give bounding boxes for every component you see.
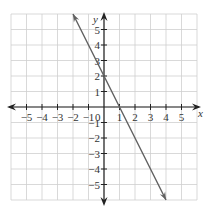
x-tick-label: 1 xyxy=(117,111,123,123)
x-tick-label: −4 xyxy=(36,111,48,123)
y-axis-label: y xyxy=(92,13,98,25)
x-tick-label: −5 xyxy=(21,111,33,123)
origin-label: 0 xyxy=(95,111,101,123)
x-tick-label: 5 xyxy=(179,111,185,123)
y-tick-label: 2 xyxy=(95,70,101,82)
x-tick-label: −3 xyxy=(52,111,64,123)
axes xyxy=(7,12,201,206)
y-tick-label: 5 xyxy=(95,24,101,36)
y-tick-label: 3 xyxy=(95,55,101,67)
coordinate-plane: −5−4−3−2−11234554321−1−2−3−4−5 x y 0 xyxy=(0,0,206,217)
y-tick-label: −2 xyxy=(88,132,100,144)
y-tick-label: −3 xyxy=(88,148,100,160)
y-tick-label: 4 xyxy=(95,39,101,51)
x-tick-label: −2 xyxy=(67,111,79,123)
x-tick-label: 2 xyxy=(132,111,138,123)
x-tick-label: 3 xyxy=(148,111,154,123)
y-tick-label: −5 xyxy=(88,179,100,191)
x-tick-label: 4 xyxy=(163,111,169,123)
y-tick-label: −4 xyxy=(88,163,100,175)
x-axis-label: x xyxy=(197,107,203,119)
y-tick-label: 1 xyxy=(95,86,101,98)
